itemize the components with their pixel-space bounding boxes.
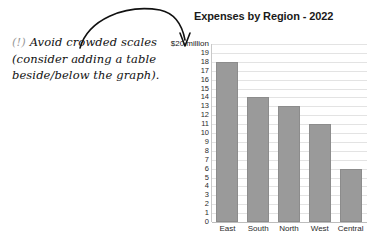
y-tick-label: 19 xyxy=(201,49,209,57)
x-tick-label: South xyxy=(248,224,269,233)
y-tick-label: 3 xyxy=(205,192,209,200)
y-axis-tick-labels: $20 million19181716151413121110987654321… xyxy=(186,44,210,222)
y-tick-label: 13 xyxy=(201,103,209,111)
y-tick-label: 16 xyxy=(201,76,209,84)
y-tick-label: 14 xyxy=(201,94,209,102)
x-axis-tick-labels: EastSouthNorthWestCentral xyxy=(186,224,382,242)
x-tick-label: West xyxy=(311,224,329,233)
plot-area: $20 million19181716151413121110987654321… xyxy=(186,44,382,222)
y-tick-label: 12 xyxy=(201,111,209,119)
y-tick-label: 7 xyxy=(205,156,209,164)
y-tick-label: 15 xyxy=(201,85,209,93)
y-tick-label: 1 xyxy=(205,209,209,217)
chart-title: Expenses by Region - 2022 xyxy=(194,10,333,22)
y-tick-label: 2 xyxy=(205,200,209,208)
bar-series xyxy=(212,44,366,222)
bar xyxy=(309,124,331,222)
y-tick-label: 17 xyxy=(201,67,209,75)
y-tick-label: 4 xyxy=(205,183,209,191)
bar xyxy=(278,106,300,222)
annotation-line-2: (consider adding a table xyxy=(12,51,180,68)
annotation-line-3: beside/below the graph). xyxy=(12,67,180,84)
x-tick-label: North xyxy=(279,224,299,233)
y-tick-label: 5 xyxy=(205,174,209,182)
bar xyxy=(340,169,362,222)
y-tick-label: 10 xyxy=(201,129,209,137)
y-tick-label: 9 xyxy=(205,138,209,146)
annotation-line-1: (!) Avoid crowded scales xyxy=(12,34,180,51)
y-tick-label: 18 xyxy=(201,58,209,66)
bar xyxy=(216,62,238,222)
x-tick-label: East xyxy=(219,224,235,233)
x-tick-label: Central xyxy=(338,224,364,233)
annotation-text-1: Avoid crowded scales xyxy=(30,35,157,49)
gridline xyxy=(212,222,367,223)
y-tick-label: 6 xyxy=(205,165,209,173)
y-tick-label: 8 xyxy=(205,147,209,155)
y-tick-label: $20 million xyxy=(171,40,209,48)
bar xyxy=(247,97,269,222)
warning-marker-icon: (!) xyxy=(12,35,26,49)
y-tick-label: 11 xyxy=(201,120,209,128)
critique-annotation: (!) Avoid crowded scales (consider addin… xyxy=(12,34,180,84)
bar-chart: Expenses by Region - 2022 $20 million191… xyxy=(186,0,382,246)
